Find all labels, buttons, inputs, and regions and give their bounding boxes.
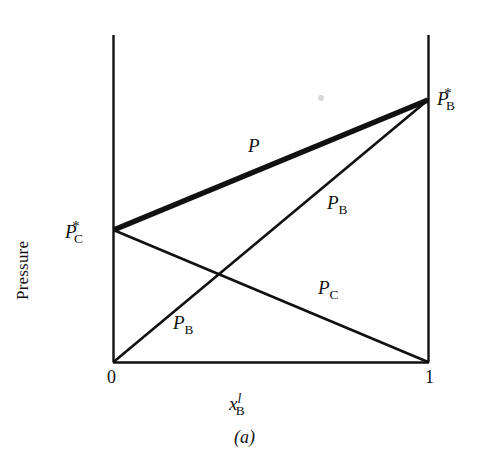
partial-pressure-b-line bbox=[114, 100, 429, 362]
x-axis-title-subscript: B bbox=[236, 403, 245, 418]
total-pressure-line bbox=[114, 100, 429, 230]
label-pc-star-subscript: C bbox=[74, 231, 83, 246]
label-pc: PC bbox=[318, 278, 338, 301]
scan-artifact-speck bbox=[318, 95, 324, 101]
partial-pressure-c-line bbox=[114, 230, 429, 362]
label-pb-upper-base: P bbox=[327, 192, 339, 213]
label-pb-star-subscript: B bbox=[446, 98, 455, 113]
label-pc-star: P*C bbox=[65, 219, 83, 245]
x-tick-label-0: 0 bbox=[107, 368, 116, 386]
label-pc-subscript: C bbox=[330, 287, 339, 302]
label-pb-lower-base: P bbox=[173, 312, 185, 333]
label-pb-lower: PB bbox=[173, 313, 193, 336]
x-axis-title: xlB bbox=[229, 392, 245, 417]
y-axis-title: Pressure bbox=[14, 266, 31, 300]
label-pb-lower-subscript: B bbox=[185, 322, 194, 337]
label-pb-star: P*B bbox=[437, 86, 455, 112]
figure-container: Pressure P*C P*B P PB PB PC 0 1 xlB (a) bbox=[0, 0, 486, 469]
label-pb-upper-subscript: B bbox=[339, 202, 348, 217]
x-tick-label-1: 1 bbox=[425, 368, 434, 386]
label-pb-upper: PB bbox=[327, 193, 347, 216]
label-pc-base: P bbox=[318, 277, 330, 298]
label-total-pressure: P bbox=[248, 136, 260, 155]
figure-caption: (a) bbox=[234, 428, 255, 446]
